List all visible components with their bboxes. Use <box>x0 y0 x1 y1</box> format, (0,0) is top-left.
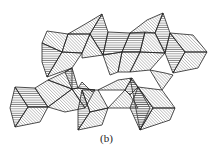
polyhedron-face <box>150 70 173 90</box>
polyhedron-faces <box>10 13 207 130</box>
polyhedra-diagram <box>0 0 213 152</box>
figure-caption: (b) <box>0 132 213 144</box>
